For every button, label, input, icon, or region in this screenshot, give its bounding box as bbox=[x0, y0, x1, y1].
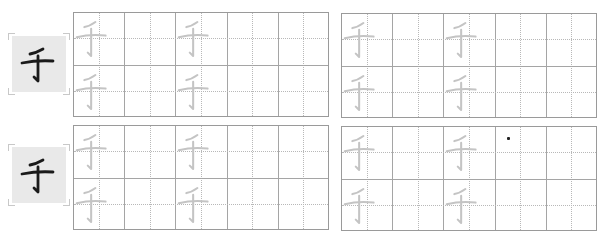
writing-cell[interactable] bbox=[393, 67, 444, 120]
writing-cell[interactable] bbox=[342, 127, 393, 180]
writing-cell[interactable] bbox=[444, 180, 495, 233]
writing-cell[interactable] bbox=[279, 179, 330, 232]
practice-grid-1-2 bbox=[341, 13, 597, 118]
writing-cell[interactable] bbox=[279, 66, 330, 119]
writing-cell[interactable] bbox=[342, 67, 393, 120]
writing-cell[interactable] bbox=[228, 66, 279, 119]
model-character-glyph bbox=[19, 156, 59, 196]
writing-cell[interactable] bbox=[444, 67, 495, 120]
writing-cell[interactable] bbox=[228, 126, 279, 179]
writing-cell[interactable] bbox=[547, 127, 598, 180]
writing-cell[interactable] bbox=[342, 14, 393, 67]
writing-cell[interactable] bbox=[444, 14, 495, 67]
writing-cell[interactable] bbox=[444, 127, 495, 180]
writing-cell[interactable] bbox=[176, 13, 227, 66]
writing-cell[interactable] bbox=[496, 67, 547, 120]
writing-cell[interactable] bbox=[279, 126, 330, 179]
practice-grid-1-1 bbox=[73, 12, 329, 117]
writing-cell[interactable] bbox=[176, 66, 227, 119]
corner-mark bbox=[63, 199, 70, 206]
writing-cell[interactable] bbox=[279, 13, 330, 66]
writing-cell[interactable] bbox=[74, 126, 125, 179]
ink-speck bbox=[507, 137, 510, 140]
writing-cell[interactable] bbox=[74, 179, 125, 232]
corner-mark bbox=[8, 199, 15, 206]
corner-mark bbox=[63, 88, 70, 95]
writing-cell[interactable] bbox=[547, 14, 598, 67]
writing-cell[interactable] bbox=[547, 67, 598, 120]
corner-mark bbox=[8, 144, 15, 151]
writing-cell[interactable] bbox=[125, 66, 176, 119]
writing-cell[interactable] bbox=[74, 66, 125, 119]
writing-cell[interactable] bbox=[393, 180, 444, 233]
writing-cell[interactable] bbox=[125, 126, 176, 179]
corner-mark bbox=[8, 88, 15, 95]
writing-cell[interactable] bbox=[342, 180, 393, 233]
model-character-glyph bbox=[19, 45, 59, 85]
writing-cell[interactable] bbox=[125, 179, 176, 232]
writing-cell[interactable] bbox=[393, 127, 444, 180]
writing-cell[interactable] bbox=[496, 14, 547, 67]
writing-cell[interactable] bbox=[393, 14, 444, 67]
writing-cell[interactable] bbox=[176, 126, 227, 179]
corner-mark bbox=[63, 144, 70, 151]
writing-cell[interactable] bbox=[496, 180, 547, 233]
writing-cell[interactable] bbox=[496, 127, 547, 180]
writing-cell[interactable] bbox=[176, 179, 227, 232]
writing-cell[interactable] bbox=[228, 179, 279, 232]
writing-cell[interactable] bbox=[125, 13, 176, 66]
model-character-box-2 bbox=[8, 144, 70, 206]
writing-cell[interactable] bbox=[74, 13, 125, 66]
corner-mark bbox=[63, 33, 70, 40]
practice-grid-2-1 bbox=[73, 125, 329, 230]
corner-mark bbox=[8, 33, 15, 40]
model-character-box-1 bbox=[8, 33, 70, 95]
practice-grid-2-2 bbox=[341, 126, 597, 231]
writing-cell[interactable] bbox=[228, 13, 279, 66]
writing-cell[interactable] bbox=[547, 180, 598, 233]
